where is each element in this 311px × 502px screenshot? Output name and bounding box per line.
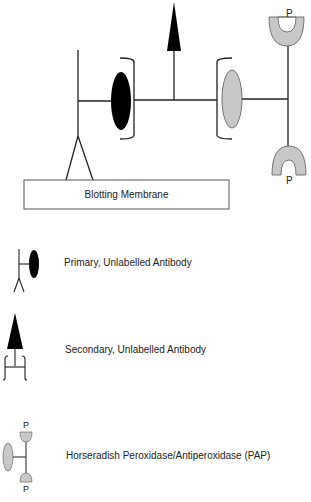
pap-ellipse bbox=[222, 70, 242, 128]
legend-label-pap: Horseradish Peroxidase/Antiperoxidase (P… bbox=[66, 450, 270, 461]
peroxidase-cup-bottom bbox=[272, 146, 306, 175]
secondary-triangle bbox=[167, 2, 181, 51]
secondary-antibody-icon bbox=[7, 313, 23, 349]
peroxidase-label-top: P bbox=[286, 8, 293, 19]
svg-text:P: P bbox=[23, 420, 29, 430]
pap-complex-icon: P P bbox=[3, 420, 32, 494]
legend-label-secondary: Secondary, Unlabelled Antibody bbox=[65, 344, 206, 355]
diagram-canvas: P P P P bbox=[0, 0, 311, 502]
primary-antibody-icon bbox=[14, 249, 30, 292]
peroxidase-label-bottom: P bbox=[286, 175, 293, 186]
svg-text:P: P bbox=[23, 484, 29, 494]
membrane-label: Blotting Membrane bbox=[24, 181, 229, 209]
peroxidase-cup-top bbox=[269, 17, 304, 46]
primary-antigen-ellipse bbox=[111, 72, 131, 130]
primary-antibody-main bbox=[66, 50, 112, 180]
legend-label-primary: Primary, Unlabelled Antibody bbox=[64, 257, 192, 268]
